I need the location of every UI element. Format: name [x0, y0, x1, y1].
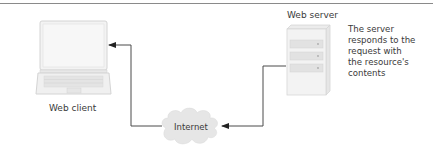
note-line: request with — [348, 46, 432, 57]
note-line: contents — [348, 68, 432, 79]
web-client-label: Web client — [49, 103, 96, 114]
server-icon — [287, 25, 330, 95]
internet-label: Internet — [168, 122, 214, 132]
edge-internet-to-client — [109, 45, 162, 126]
server-response-note: The server responds to the request with … — [348, 24, 432, 79]
web-server-label: Web server — [287, 10, 338, 21]
laptop-icon — [36, 21, 111, 94]
note-line: the resource's — [348, 57, 432, 68]
edge-server-to-internet — [222, 66, 286, 126]
note-line: The server — [348, 24, 432, 35]
note-line: responds to the — [348, 35, 432, 46]
